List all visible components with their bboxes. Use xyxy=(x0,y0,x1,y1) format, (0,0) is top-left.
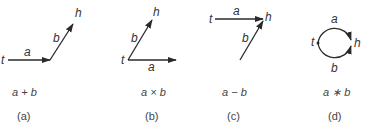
arc-a xyxy=(318,28,351,43)
edge-label-b: b xyxy=(53,31,60,45)
tail-label: t xyxy=(1,53,5,67)
tail-label: t xyxy=(121,53,125,67)
edge-label-b: b xyxy=(131,31,138,45)
figure-a: t a b h a + b (a) xyxy=(1,6,82,122)
head-label: h xyxy=(265,10,272,24)
edge-label-b: b xyxy=(242,31,249,45)
formula: a − b xyxy=(222,86,247,98)
caption: (c) xyxy=(227,110,240,122)
caption: (d) xyxy=(328,110,341,122)
figure-d: t a b h a ∗ b (d) xyxy=(311,12,361,122)
head-label: h xyxy=(153,5,160,19)
edge-label-a: a xyxy=(148,60,155,74)
edge-label-b: b xyxy=(331,61,338,75)
formula: a ∗ b xyxy=(323,86,350,98)
tail-label: t xyxy=(209,12,213,26)
caption: (a) xyxy=(17,110,30,122)
edge-label-a: a xyxy=(24,45,31,59)
figure-c: t a b h a − b (c) xyxy=(209,4,272,122)
arc-b xyxy=(318,43,351,58)
head-label: h xyxy=(75,6,82,20)
formula: a × b xyxy=(141,86,166,98)
caption: (b) xyxy=(145,110,158,122)
figure-b: t a b h a × b (b) xyxy=(121,5,176,122)
vector-operations-diagram: t a b h a + b (a) t a b h a × b (b) t a … xyxy=(0,0,365,130)
formula: a + b xyxy=(12,86,37,98)
edge-label-a: a xyxy=(233,4,240,18)
tail-label: t xyxy=(311,35,315,49)
edge-label-a: a xyxy=(331,12,338,26)
head-label: h xyxy=(354,36,361,50)
